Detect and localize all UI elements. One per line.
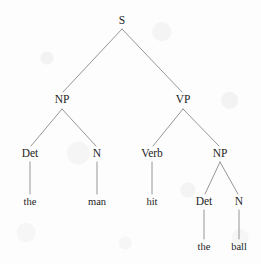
tree-node-n2: N (235, 196, 243, 208)
tree-node-man: man (88, 197, 106, 208)
tree-edges-layer (0, 0, 261, 264)
tree-edge-S-to-NP1 (63, 29, 122, 92)
tree-edge-NP1-to-Det1 (31, 109, 62, 146)
tree-node-n1: N (93, 148, 101, 160)
tree-node-verb: Verb (141, 148, 163, 160)
parse-tree-figure: SNPVPDetNVerbNPthemanhitDetNtheball (0, 0, 261, 264)
tree-node-np1: NP (55, 94, 70, 106)
tree-edge-NP2-to-Det2 (205, 162, 220, 194)
tree-node-np2: NP (213, 148, 228, 160)
tree-edge-VP-to-NP2 (183, 109, 219, 146)
tree-edge-VP-to-Verb (153, 109, 183, 146)
tree-node-the1: the (24, 197, 37, 208)
tree-node-vp: VP (176, 94, 191, 106)
tree-node-det1: Det (22, 148, 39, 160)
tree-edge-NP2-to-N2 (220, 162, 238, 194)
tree-node-ball: ball (231, 242, 247, 253)
tree-node-hit: hit (146, 197, 157, 208)
tree-node-det2: Det (196, 196, 213, 208)
tree-edge-S-to-VP (122, 29, 182, 92)
tree-edge-NP1-to-N1 (62, 109, 96, 146)
tree-node-s: S (119, 15, 125, 27)
tree-node-the2: the (198, 242, 211, 253)
